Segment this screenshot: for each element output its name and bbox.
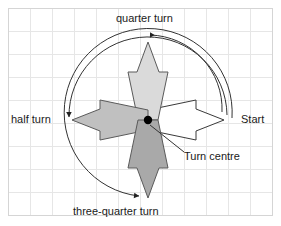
label-quarter-turn: quarter turn xyxy=(116,12,173,24)
label-start: Start xyxy=(241,113,264,125)
rotation-turns-diagram: quarter turn half turn three-quarter tur… xyxy=(0,0,281,226)
turn-centre-dot xyxy=(144,116,152,124)
label-three-quarter-turn: three-quarter turn xyxy=(73,205,159,217)
diagram-canvas: quarter turn half turn three-quarter tur… xyxy=(0,0,281,226)
label-turn-centre: Turn centre xyxy=(184,150,240,162)
label-half-turn: half turn xyxy=(11,113,51,125)
